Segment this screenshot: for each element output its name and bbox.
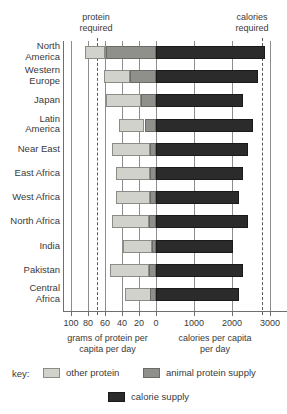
segment-other-protein — [123, 240, 152, 253]
segment-animal-protein — [145, 119, 156, 132]
bar-group — [0, 70, 287, 83]
tick-protein-0 — [156, 311, 157, 316]
bar-group — [0, 143, 287, 156]
bar-group — [0, 240, 287, 253]
bar-group — [0, 167, 287, 180]
segment-other-protein — [104, 70, 130, 83]
segment-calorie-supply — [156, 191, 239, 204]
bar-group — [0, 191, 287, 204]
segment-animal-protein — [141, 94, 156, 107]
tick-protein-40 — [122, 311, 123, 316]
bar-group — [0, 119, 287, 132]
tick-protein-80 — [88, 311, 89, 316]
segment-calorie-supply — [156, 119, 253, 132]
animal-protein-swatch — [143, 368, 160, 378]
protein-required-label: protein required — [52, 12, 140, 33]
segment-other-protein — [116, 191, 150, 204]
segment-other-protein — [106, 94, 141, 107]
axis-baseline — [63, 311, 287, 312]
segment-calorie-supply — [156, 143, 248, 156]
segment-animal-protein — [130, 70, 156, 83]
tick-label-calorie-1000: 1000 — [177, 318, 211, 328]
segment-other-protein — [125, 288, 151, 301]
segment-calorie-supply — [156, 240, 233, 253]
key-label: key: — [12, 368, 29, 379]
tick-protein-100 — [71, 311, 72, 316]
bar-group — [0, 264, 287, 277]
tick-protein-20 — [139, 311, 140, 316]
protein-axis-title: grams of protein per capita per day — [55, 333, 160, 354]
bar-group — [0, 94, 287, 107]
tick-calorie-1000 — [194, 311, 195, 316]
chart-root: protein required calories required North… — [0, 0, 287, 414]
bar-group — [0, 288, 287, 301]
segment-other-protein — [110, 264, 149, 277]
calorie-supply-swatch — [108, 392, 125, 402]
segment-calorie-supply — [156, 167, 243, 180]
tick-label-calorie-3000: 3000 — [253, 318, 287, 328]
segment-calorie-supply — [156, 215, 248, 228]
tick-label-calorie-2000: 2000 — [215, 318, 249, 328]
animal-protein-key-text: animal protein supply — [166, 367, 256, 378]
segment-calorie-supply — [156, 264, 243, 277]
segment-other-protein — [112, 143, 150, 156]
tick-calorie-3000 — [270, 311, 271, 316]
segment-animal-protein — [149, 215, 156, 228]
segment-animal-protein — [149, 264, 156, 277]
tick-protein-60 — [105, 311, 106, 316]
segment-calorie-supply — [156, 288, 239, 301]
segment-calorie-supply — [156, 70, 258, 83]
calories-required-label: calories required — [218, 12, 286, 33]
bar-group — [0, 46, 287, 59]
segment-calorie-supply — [156, 94, 243, 107]
bar-group — [0, 215, 287, 228]
segment-animal-protein — [106, 46, 156, 59]
other-protein-swatch — [43, 368, 60, 378]
other-protein-key-text: other protein — [66, 367, 119, 378]
segment-other-protein — [112, 215, 149, 228]
segment-calorie-supply — [156, 46, 265, 59]
segment-other-protein — [85, 46, 105, 59]
segment-other-protein — [116, 167, 150, 180]
tick-label-protein-0: 0 — [139, 318, 173, 328]
calorie-axis-title: calories per capita per day — [165, 333, 265, 354]
tick-calorie-2000 — [232, 311, 233, 316]
calorie-supply-key-text: calorie supply — [131, 391, 189, 402]
segment-other-protein — [119, 119, 144, 132]
